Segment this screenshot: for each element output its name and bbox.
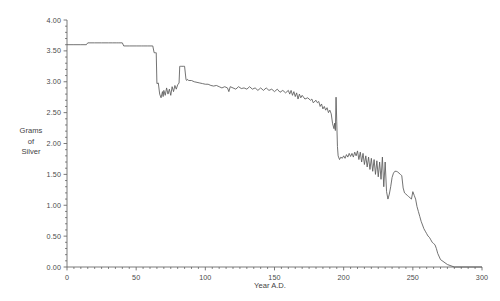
x-tick-label: 50: [122, 273, 150, 282]
y-tick-label: 3.50: [29, 46, 61, 55]
y-tick-label: 0.00: [29, 263, 61, 272]
y-axis-title-line-3: Silver: [8, 147, 54, 158]
x-tick-label: 200: [330, 273, 358, 282]
y-tick-label: 4.00: [29, 16, 61, 25]
y-tick-label: 3.00: [29, 77, 61, 86]
axes: [64, 20, 482, 270]
x-tick-label: 100: [191, 273, 219, 282]
data-series: [67, 43, 482, 267]
chart-figure: Grams of Silver Year A.D. 0.000.501.001.…: [0, 0, 500, 301]
x-axis-title: Year A.D.: [205, 281, 335, 290]
x-tick-label: 150: [261, 273, 289, 282]
y-tick-label: 1.50: [29, 170, 61, 179]
y-tick-label: 0.50: [29, 232, 61, 241]
x-tick-label: 300: [468, 273, 496, 282]
chart-plot-area: [0, 0, 500, 301]
y-tick-label: 2.50: [29, 108, 61, 117]
x-tick-label: 250: [399, 273, 427, 282]
y-tick-label: 1.00: [29, 201, 61, 210]
x-tick-label: 0: [53, 273, 81, 282]
y-tick-label: 2.00: [29, 139, 61, 148]
y-axis-title-line-1: Grams: [8, 126, 54, 137]
